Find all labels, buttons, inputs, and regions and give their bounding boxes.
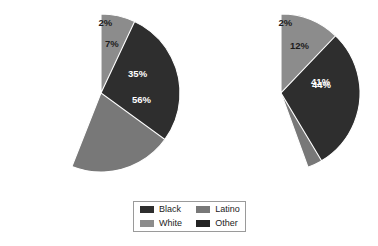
legend-swatch-other bbox=[196, 220, 210, 227]
pie-slice-label-other-2: 2% bbox=[279, 17, 293, 28]
legend-label-latino: Latino bbox=[215, 203, 240, 216]
legend-swatch-black bbox=[140, 206, 154, 213]
legend-label-black: Black bbox=[159, 203, 181, 216]
pie-slice-label-black-1: 35% bbox=[128, 68, 148, 79]
pie-slice-label-other-1: 2% bbox=[99, 17, 113, 28]
legend-swatch-latino bbox=[196, 206, 210, 213]
pie-chart-figure: 2%56%35%7%2%44%41%12% BlackLatinoWhiteOt… bbox=[0, 0, 378, 246]
pie-slice-label-white-2: 12% bbox=[290, 40, 310, 51]
legend-label-white: White bbox=[159, 217, 182, 230]
legend-swatch-white bbox=[140, 220, 154, 227]
legend-item-black[interactable]: Black bbox=[140, 203, 187, 216]
pie-slice-label-white-1: 7% bbox=[105, 38, 119, 49]
pie-slice-label-black-2: 41% bbox=[311, 76, 331, 87]
chart-legend: BlackLatinoWhiteOther bbox=[133, 201, 246, 232]
legend-item-white[interactable]: White bbox=[140, 217, 187, 230]
legend-item-latino[interactable]: Latino bbox=[196, 203, 245, 216]
legend-label-other: Other bbox=[215, 217, 238, 230]
legend-item-other[interactable]: Other bbox=[196, 217, 245, 230]
pie-slice-label-latino-1: 56% bbox=[132, 94, 152, 105]
